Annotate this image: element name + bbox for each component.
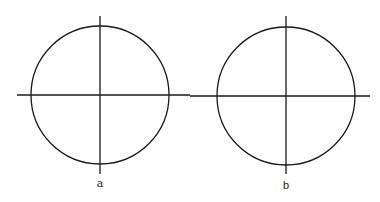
figure-b — [190, 16, 370, 174]
figure-label-a: a — [97, 178, 104, 189]
figure-a — [17, 16, 190, 174]
diagram-canvas — [0, 0, 380, 202]
figure-label-b: b — [283, 180, 289, 191]
